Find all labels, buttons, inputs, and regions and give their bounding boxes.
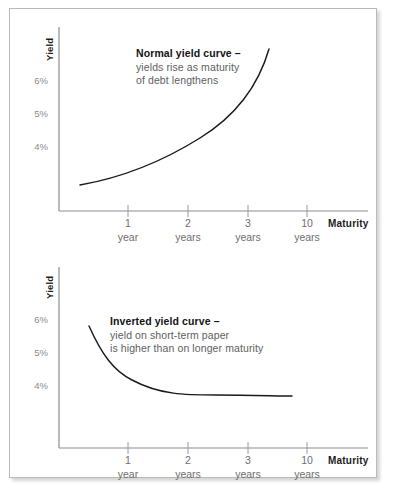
x-tick-label-2-years: 2 years (163, 453, 213, 481)
inverted-curve-annotation: Inverted yield curve – yield on short-te… (110, 315, 263, 356)
x-tick-number: 1 (103, 453, 153, 467)
x-tick-unit: year (103, 230, 153, 244)
annotation-line-3: is higher than on longer maturity (110, 342, 263, 356)
y-tick-label-5pct: 5% (24, 108, 48, 119)
normal-curve-annotation: Normal yield curve – yields rise as matu… (136, 47, 241, 88)
x-tick-number: 3 (223, 453, 273, 467)
y-tick-label-6pct: 6% (24, 314, 48, 325)
figure-card: Yield 6% 5% 4% 1 year 2 years 3 years 10… (9, 8, 377, 478)
annotation-line-3: of debt lengthens (136, 74, 241, 88)
x-tick-number: 1 (103, 216, 153, 230)
y-tick-label-4pct: 4% (24, 380, 48, 391)
x-tick-number: 10 (282, 453, 332, 467)
y-axis-title: Yield (44, 38, 55, 61)
x-tick-label-3-years: 3 years (223, 216, 273, 244)
x-tick-unit: years (282, 230, 332, 244)
x-tick-unit: years (282, 467, 332, 481)
x-tick-number: 3 (223, 216, 273, 230)
chart-inverted-yield-curve: Yield 6% 5% 4% 1 year 2 years 3 years 10… (10, 249, 378, 479)
x-tick-label-2-years: 2 years (163, 216, 213, 244)
x-axis-title: Maturity (328, 218, 369, 229)
annotation-line-2: yield on short-term paper (110, 329, 263, 343)
chart-normal-yield-curve: Yield 6% 5% 4% 1 year 2 years 3 years 10… (10, 13, 378, 245)
y-tick-label-4pct: 4% (24, 141, 48, 152)
x-tick-number: 10 (282, 216, 332, 230)
x-tick-number: 2 (163, 216, 213, 230)
x-tick-unit: years (223, 230, 273, 244)
x-tick-label-1-year: 1 year (103, 216, 153, 244)
x-tick-unit: year (103, 467, 153, 481)
x-axis-title: Maturity (328, 455, 369, 466)
x-tick-number: 2 (163, 453, 213, 467)
x-tick-unit: years (223, 467, 273, 481)
x-tick-unit: years (163, 230, 213, 244)
x-tick-label-3-years: 3 years (223, 453, 273, 481)
x-tick-unit: years (163, 467, 213, 481)
annotation-line-2: yields rise as maturity (136, 61, 241, 75)
inverted-curve-plot (10, 249, 378, 479)
x-tick-label-10-years: 10 years (282, 453, 332, 481)
x-tick-label-1-year: 1 year (103, 453, 153, 481)
y-tick-label-5pct: 5% (24, 347, 48, 358)
y-tick-label-6pct: 6% (24, 75, 48, 86)
annotation-heading: Inverted yield curve – (110, 315, 263, 329)
figure-page: Yield 6% 5% 4% 1 year 2 years 3 years 10… (0, 0, 402, 500)
y-axis-title: Yield (44, 276, 55, 299)
x-tick-label-10-years: 10 years (282, 216, 332, 244)
annotation-heading: Normal yield curve – (136, 47, 241, 61)
